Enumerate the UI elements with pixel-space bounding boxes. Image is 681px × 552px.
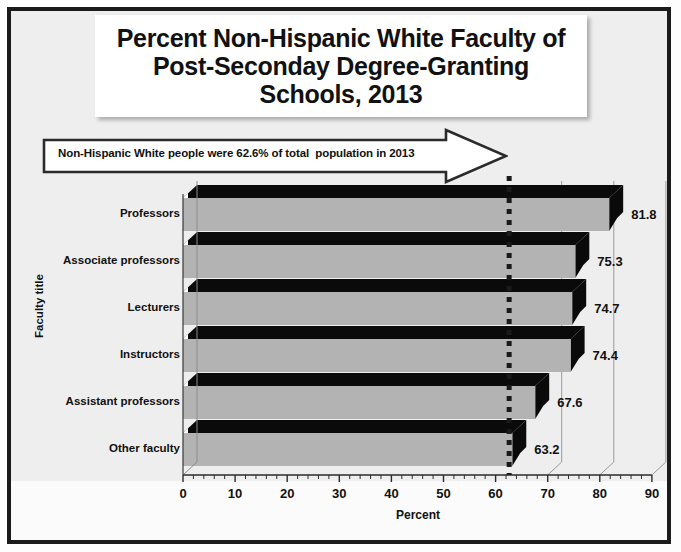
x-tick-label: 30: [319, 486, 359, 501]
callout-text: Non-Hispanic White people were 62.6% of …: [58, 147, 414, 159]
x-tick-label: 90: [632, 486, 672, 501]
page-title: Percent Non-Hispanic White Faculty of Po…: [111, 24, 572, 109]
category-label: Associate professors: [0, 254, 180, 266]
bar-value-label: 75.3: [597, 254, 622, 269]
category-label-row: Instructors: [0, 348, 180, 364]
category-label-row: Professors: [0, 207, 180, 223]
x-axis-title: Percent: [183, 508, 653, 522]
callout-arrow: Non-Hispanic White people were 62.6% of …: [42, 128, 508, 184]
bar-value-label: 63.2: [534, 442, 559, 457]
category-label-row: Assistant professors: [0, 395, 180, 411]
category-label: Assistant professors: [0, 395, 180, 407]
x-tick-label: 50: [424, 486, 464, 501]
x-tick-label: 80: [580, 486, 620, 501]
bar-value-label: 81.8: [631, 207, 656, 222]
category-label: Lecturers: [0, 301, 180, 313]
category-label: Instructors: [0, 348, 180, 360]
chart-screenshot: Percent Non-Hispanic White Faculty of Po…: [0, 0, 681, 552]
bar-value-label: 74.7: [594, 301, 619, 316]
bar-value-label: 67.6: [557, 395, 582, 410]
x-tick-label: 60: [476, 486, 516, 501]
chart-title-box: Percent Non-Hispanic White Faculty of Po…: [95, 15, 587, 117]
x-tick-label: 0: [163, 486, 203, 501]
x-tick-label: 20: [267, 486, 307, 501]
category-label-row: Other faculty: [0, 442, 180, 458]
x-tick-label: 70: [528, 486, 568, 501]
category-label: Other faculty: [0, 442, 180, 454]
category-label-row: Associate professors: [0, 254, 180, 270]
category-label-row: Lecturers: [0, 301, 180, 317]
bar-value-label: 74.4: [593, 348, 618, 363]
x-tick-label: 10: [215, 486, 255, 501]
category-label: Professors: [0, 207, 180, 219]
x-tick-label: 40: [371, 486, 411, 501]
